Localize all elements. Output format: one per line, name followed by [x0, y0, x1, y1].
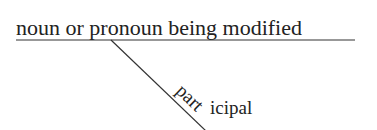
participle-diagonal-label: part — [172, 80, 208, 116]
participle-horizontal-label: icipal — [210, 97, 252, 118]
sentence-diagram: noun or pronoun being modified part icip… — [0, 0, 377, 130]
diagram-svg: noun or pronoun being modified part icip… — [0, 0, 377, 130]
modified-word-label: noun or pronoun being modified — [16, 15, 302, 40]
